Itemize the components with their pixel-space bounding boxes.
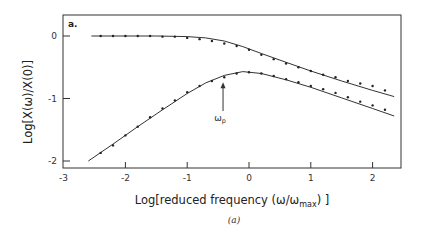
data-point bbox=[99, 35, 101, 37]
data-point bbox=[235, 72, 237, 74]
data-point bbox=[235, 45, 237, 47]
fit-curve-1 bbox=[88, 72, 394, 161]
omega-p-label: ωp bbox=[214, 113, 226, 125]
data-point bbox=[347, 96, 349, 98]
y-axis-title: Log[X(ω)/X(0)] bbox=[21, 60, 35, 144]
data-point bbox=[371, 104, 373, 106]
data-point bbox=[310, 70, 312, 72]
x-tick-label: 2 bbox=[370, 173, 376, 183]
data-point bbox=[174, 35, 176, 37]
x-tick-label: 1 bbox=[308, 173, 314, 183]
x-tick-label: -3 bbox=[59, 173, 68, 183]
data-point bbox=[112, 35, 114, 37]
x-axis-title: Log[reduced frequency (ω/ωmax) ] bbox=[135, 193, 330, 209]
data-point bbox=[112, 144, 114, 146]
data-point bbox=[260, 54, 262, 56]
data-point bbox=[297, 81, 299, 83]
data-point bbox=[273, 58, 275, 60]
data-point bbox=[359, 100, 361, 102]
data-point bbox=[223, 42, 225, 44]
data-point bbox=[124, 35, 126, 37]
x-tick-label: -2 bbox=[121, 173, 130, 183]
data-point bbox=[186, 37, 188, 39]
data-point bbox=[137, 35, 139, 37]
data-point bbox=[260, 72, 262, 74]
data-point bbox=[223, 76, 225, 78]
data-point bbox=[334, 92, 336, 94]
data-point bbox=[273, 75, 275, 77]
data-point bbox=[384, 109, 386, 111]
y-tick-label: 0 bbox=[51, 31, 57, 41]
data-point bbox=[174, 99, 176, 101]
data-point bbox=[359, 82, 361, 84]
data-point bbox=[198, 85, 200, 87]
y-tick-label: -2 bbox=[48, 156, 57, 166]
axis-ticks: -3-2-10120-1-2 bbox=[48, 31, 375, 183]
x-tick-label: -1 bbox=[183, 173, 192, 183]
data-point bbox=[285, 62, 287, 64]
data-point bbox=[211, 80, 213, 82]
data-point bbox=[347, 80, 349, 82]
y-tick-label: -1 bbox=[48, 94, 57, 104]
data-point bbox=[248, 71, 250, 73]
data-point bbox=[137, 125, 139, 127]
data-point bbox=[248, 49, 250, 51]
data-point bbox=[297, 66, 299, 68]
data-point bbox=[322, 88, 324, 90]
data-point bbox=[322, 74, 324, 76]
data-point bbox=[161, 35, 163, 37]
x-tick-label: 0 bbox=[246, 173, 252, 183]
data-point bbox=[198, 38, 200, 40]
data-point bbox=[149, 35, 151, 37]
data-point bbox=[149, 116, 151, 118]
data-point bbox=[334, 76, 336, 78]
data-point bbox=[124, 134, 126, 136]
fit-curve-0 bbox=[91, 36, 394, 97]
arrow-up-icon bbox=[221, 82, 226, 88]
data-point bbox=[186, 91, 188, 93]
data-series bbox=[88, 35, 394, 161]
data-point bbox=[310, 85, 312, 87]
data-point bbox=[99, 152, 101, 154]
data-point bbox=[285, 78, 287, 80]
data-point bbox=[371, 85, 373, 87]
panel-label: a. bbox=[68, 19, 78, 29]
data-point bbox=[211, 40, 213, 42]
figure-caption: (a) bbox=[228, 215, 241, 225]
chart: -3-2-10120-1-2 ωp a. Log[X(ω)/X(0)] Log[… bbox=[0, 0, 421, 241]
data-point bbox=[384, 89, 386, 91]
data-point bbox=[161, 107, 163, 109]
omega-p-annotation: ωp bbox=[214, 82, 226, 125]
